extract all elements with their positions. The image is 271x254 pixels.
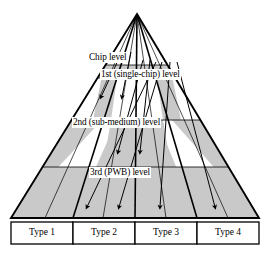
level-label-first: 1st (single-chip) level bbox=[100, 69, 181, 80]
level-label-second: 2nd (sub-medium) level bbox=[72, 117, 161, 128]
type-label-1: Type 1 bbox=[11, 227, 73, 238]
type-label-2: Type 2 bbox=[73, 227, 135, 238]
figure-canvas: Chip level 1st (single-chip) level 2nd (… bbox=[0, 0, 271, 254]
level-label-third: 3rd (PWB) level bbox=[89, 167, 151, 178]
type-label-4: Type 4 bbox=[197, 227, 259, 238]
level-label-chip: Chip level bbox=[88, 52, 127, 63]
type-label-3: Type 3 bbox=[135, 227, 197, 238]
